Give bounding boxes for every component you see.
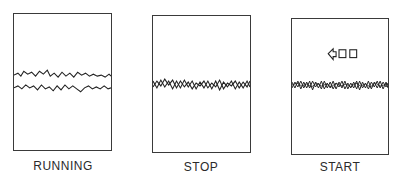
square-icon bbox=[350, 50, 357, 58]
label-stop: STOP bbox=[146, 160, 256, 174]
panel-start bbox=[291, 18, 389, 155]
label-running: RUNNING bbox=[8, 159, 118, 173]
panel-stop bbox=[152, 15, 251, 153]
label-start: START bbox=[285, 160, 395, 174]
waveform-running bbox=[14, 14, 111, 150]
arrow-left-icon bbox=[328, 49, 336, 60]
square-icon bbox=[339, 50, 346, 58]
waveform-stop bbox=[153, 16, 250, 152]
panel-running bbox=[13, 13, 112, 151]
waveform-start bbox=[292, 19, 388, 154]
